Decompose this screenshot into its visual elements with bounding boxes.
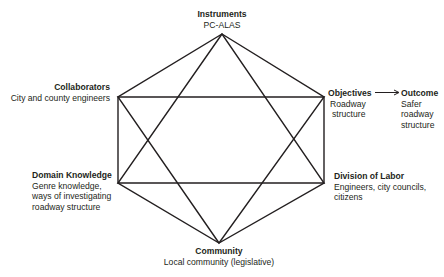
node-title: Collaborators	[0, 82, 110, 93]
node-collaborators: Collaborators City and county engineers	[0, 82, 110, 103]
node-desc: citizens	[334, 192, 426, 203]
node-desc: Engineers, city councils,	[334, 182, 426, 193]
node-outcome: Outcome Safer roadway structure	[401, 88, 438, 130]
node-desc: Roadway	[328, 99, 371, 110]
node-title: Outcome	[401, 88, 438, 99]
node-desc: Genre knowledge,	[32, 181, 112, 192]
node-desc: PC-ALAS	[172, 20, 272, 31]
node-instruments: Instruments PC-ALAS	[172, 9, 272, 30]
node-desc: roadway	[401, 109, 438, 120]
node-objectives: Objectives Roadway structure	[328, 88, 371, 120]
node-title: Objectives	[328, 88, 371, 99]
node-desc: Safer	[401, 99, 438, 110]
node-title: Domain Knowledge	[32, 170, 112, 181]
node-desc: structure	[401, 120, 438, 131]
node-desc: City and county engineers	[0, 93, 110, 104]
node-division-of-labor: Division of Labor Engineers, city counci…	[334, 171, 426, 203]
node-desc: structure	[328, 109, 371, 120]
node-title: Division of Labor	[334, 171, 426, 182]
node-desc: Local community (legislative)	[139, 257, 299, 268]
hexagram-lines	[0, 0, 444, 277]
triangle-down	[118, 97, 324, 243]
node-title: Community	[139, 246, 299, 257]
node-desc: roadway structure	[32, 202, 112, 213]
node-title: Instruments	[172, 9, 272, 20]
node-community: Community Local community (legislative)	[139, 246, 299, 267]
triangle-up	[118, 34, 324, 183]
node-domain-knowledge: Domain Knowledge Genre knowledge, ways o…	[32, 170, 112, 212]
node-desc: ways of investigating	[32, 191, 112, 202]
arrow-objectives-to-outcome	[375, 90, 399, 95]
